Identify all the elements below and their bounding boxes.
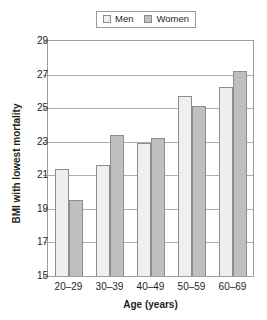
y-axis-tick-label: 17 bbox=[24, 237, 48, 247]
x-axis-tick-label: 50–59 bbox=[178, 281, 206, 292]
bar-group bbox=[178, 41, 206, 276]
legend-label-men: Men bbox=[115, 14, 133, 24]
legend-entry-men: Men bbox=[103, 14, 133, 24]
bar-group bbox=[219, 41, 247, 276]
x-axis-tick-label: 40–49 bbox=[137, 281, 165, 292]
x-axis-title: Age (years) bbox=[47, 299, 254, 310]
bar-women bbox=[233, 71, 247, 276]
bar-women bbox=[151, 138, 165, 276]
bar-men bbox=[96, 165, 110, 276]
legend-entry-women: Women bbox=[144, 14, 189, 24]
bar-men bbox=[55, 169, 69, 276]
y-axis-tick-label: 19 bbox=[24, 204, 48, 214]
legend-swatch-men-icon bbox=[103, 15, 111, 23]
bar-men bbox=[219, 87, 233, 276]
bar-women bbox=[110, 135, 124, 276]
x-axis-tick-labels: 20–2930–3940–4950–5960–69 bbox=[48, 281, 253, 292]
bars-layer bbox=[48, 41, 253, 276]
y-axis-tick-label: 15 bbox=[24, 271, 48, 281]
y-axis-tick-label: 27 bbox=[24, 70, 48, 80]
x-axis-tick-label: 20–29 bbox=[55, 281, 83, 292]
bar-group bbox=[96, 41, 124, 276]
y-axis-tick-label: 29 bbox=[24, 36, 48, 46]
x-axis-tick-label: 60–69 bbox=[219, 281, 247, 292]
bar-women bbox=[192, 106, 206, 276]
y-axis-tick-label: 25 bbox=[24, 103, 48, 113]
y-axis-tick-label: 21 bbox=[24, 170, 48, 180]
legend-swatch-women-icon bbox=[144, 15, 152, 23]
bar-group bbox=[55, 41, 83, 276]
chart-figure: Men Women 1517192123252729 BMI with lowe… bbox=[0, 0, 267, 320]
y-axis-tick-label: 23 bbox=[24, 137, 48, 147]
chart-legend: Men Women bbox=[96, 11, 196, 28]
bar-men bbox=[137, 143, 151, 276]
y-axis-title: BMI with lowest mortality bbox=[11, 64, 22, 264]
bar-men bbox=[178, 96, 192, 276]
x-axis-tick-label: 30–39 bbox=[96, 281, 124, 292]
legend-label-women: Women bbox=[156, 14, 189, 24]
bar-women bbox=[69, 200, 83, 276]
bar-group bbox=[137, 41, 165, 276]
